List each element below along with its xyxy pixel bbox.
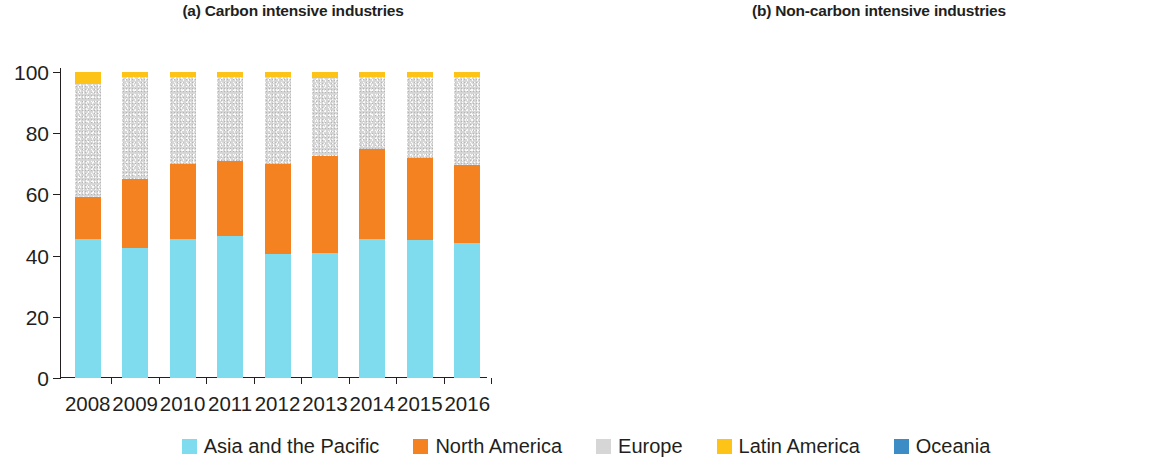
- legend-label: North America: [435, 436, 562, 456]
- bar-segment-asia-and-the-pacific: [75, 239, 101, 378]
- stacked-bar-2009: [122, 72, 148, 378]
- panel-b-title: (b) Non-carbon intensive industries: [586, 2, 1172, 20]
- legend-label: Oceania: [916, 436, 991, 456]
- stacked-bar-2012: [265, 72, 291, 378]
- stacked-bar-2010: [170, 72, 196, 378]
- legend-item-north-america: North America: [413, 436, 562, 456]
- bar-segment-asia-and-the-pacific: [217, 236, 243, 378]
- bar-segment-asia-and-the-pacific: [454, 243, 480, 378]
- legend-item-europe: Europe: [596, 436, 683, 456]
- y-axis-tick: [53, 256, 60, 257]
- y-axis-tick-label: 60: [26, 184, 49, 205]
- bar-segment-europe: [407, 77, 433, 158]
- legend-item-latin-america: Latin America: [717, 436, 860, 456]
- bar-segment-asia-and-the-pacific: [170, 239, 196, 378]
- bar-segment-north-america: [122, 179, 148, 248]
- legend-label: Asia and the Pacific: [204, 436, 380, 456]
- y-axis-tick-label: 20: [26, 306, 49, 327]
- stacked-bar-2008: [75, 72, 101, 378]
- y-axis-tick: [53, 194, 60, 195]
- y-axis-tick-label: 100: [14, 62, 49, 83]
- bar-segment-europe: [265, 77, 291, 164]
- legend-item-asia-and-the-pacific: Asia and the Pacific: [182, 436, 380, 456]
- bar-segment-europe: [454, 77, 480, 166]
- legend-swatch-latin-america: [717, 439, 732, 454]
- x-axis-tick: [159, 378, 160, 384]
- y-axis-tick-label: 80: [26, 123, 49, 144]
- bar-segment-latin-america: [122, 72, 148, 77]
- y-axis-tick: [53, 133, 60, 134]
- bar-segment-north-america: [170, 164, 196, 239]
- bar-segment-europe: [312, 78, 338, 156]
- x-axis-tick-label: 2016: [444, 392, 490, 416]
- bar-segment-asia-and-the-pacific: [407, 240, 433, 378]
- legend-item-oceania: Oceania: [894, 436, 991, 456]
- bar-segment-asia-and-the-pacific: [312, 253, 338, 378]
- x-axis-tick-label: 2013: [302, 392, 348, 416]
- bar-segment-latin-america: [312, 72, 338, 78]
- y-axis-line-a: [60, 68, 61, 379]
- x-axis-tick: [111, 378, 112, 384]
- bar-segment-latin-america: [170, 72, 196, 77]
- x-axis-tick-label: 2012: [255, 392, 301, 416]
- x-axis-tick: [301, 378, 302, 384]
- stacked-bar-2016: [454, 72, 480, 378]
- bar-segment-europe: [217, 77, 243, 161]
- bar-segment-asia-and-the-pacific: [359, 239, 385, 378]
- x-axis-tick: [206, 378, 207, 384]
- bar-segment-europe: [359, 77, 385, 149]
- x-axis-tick-label: 2009: [112, 392, 158, 416]
- legend-swatch-asia-pacific: [182, 439, 197, 454]
- x-axis-tick: [254, 378, 255, 384]
- legend-swatch-north-america: [413, 439, 428, 454]
- bar-segment-north-america: [359, 149, 385, 239]
- x-axis-tick: [396, 378, 397, 384]
- bar-segment-europe: [122, 77, 148, 180]
- x-axis-tick-label: 2011: [208, 392, 252, 416]
- legend-label: Latin America: [739, 436, 860, 456]
- x-axis-tick: [444, 378, 445, 384]
- stacked-bar-2015: [407, 72, 433, 378]
- y-axis-tick: [53, 378, 60, 379]
- panel-a-title: (a) Carbon intensive industries: [0, 2, 586, 20]
- bar-segment-north-america: [217, 161, 243, 236]
- bar-segment-latin-america: [265, 72, 291, 77]
- bar-segment-north-america: [407, 158, 433, 241]
- y-axis-tick-label: 0: [37, 368, 49, 389]
- x-axis-tick-label: 2014: [350, 392, 396, 416]
- bar-segment-north-america: [454, 165, 480, 243]
- bar-segment-north-america: [265, 164, 291, 254]
- panel-non-carbon-intensive: (b) Non-carbon intensive industries 0102…: [586, 0, 1172, 430]
- bar-segment-latin-america: [75, 72, 101, 84]
- bar-segment-latin-america: [407, 72, 433, 77]
- stacked-bar-2013: [312, 72, 338, 378]
- x-axis-tick-label: 2015: [397, 392, 443, 416]
- bar-segment-latin-america: [217, 72, 243, 77]
- legend-swatch-europe: [596, 439, 611, 454]
- bar-segment-north-america: [312, 156, 338, 252]
- bar-segment-asia-and-the-pacific: [265, 254, 291, 378]
- y-axis-tick: [53, 72, 60, 73]
- x-axis-tick-label: 2008: [65, 392, 111, 416]
- legend-label: Europe: [618, 436, 683, 456]
- legend-swatch-oceania: [894, 439, 909, 454]
- chart-legend: Asia and the PacificNorth AmericaEuropeL…: [0, 436, 1172, 456]
- figure-stacked-bar-charts: (a) Carbon intensive industries 02040608…: [0, 0, 1172, 472]
- bar-segment-europe: [170, 77, 196, 164]
- bar-segment-europe: [75, 84, 101, 197]
- bar-segment-latin-america: [359, 72, 385, 77]
- y-axis-tick-label: 40: [26, 245, 49, 266]
- x-axis-tick-label: 2010: [160, 392, 206, 416]
- stacked-bar-2014: [359, 72, 385, 378]
- bar-segment-north-america: [75, 197, 101, 238]
- stacked-bar-2011: [217, 72, 243, 378]
- bar-segment-asia-and-the-pacific: [122, 248, 148, 378]
- bar-segment-latin-america: [454, 72, 480, 77]
- y-axis-tick: [53, 317, 60, 318]
- panel-carbon-intensive: (a) Carbon intensive industries 02040608…: [0, 0, 586, 430]
- x-axis-tick: [349, 378, 350, 384]
- x-axis-tick: [491, 378, 492, 384]
- plot-area-panel-a: 0204060801002008200920102011201220132014…: [60, 72, 487, 378]
